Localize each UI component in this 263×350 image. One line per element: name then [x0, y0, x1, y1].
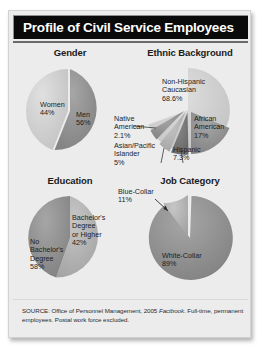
label-men: Men 56% — [76, 111, 90, 128]
chart-education-pie: Bachelor's Degree or Higher 42% No Bache… — [10, 186, 130, 296]
source-note: SOURCE: Office of Personnel Management, … — [22, 307, 244, 324]
label-bachelors-or-higher: Bachelor's Degree or Higher 42% — [72, 214, 105, 248]
leader-line-asian-pacific — [161, 148, 164, 163]
page-title: Profile of Civil Service Employees — [23, 20, 234, 35]
chart-gender-pie: Women 44% Men 56% — [10, 58, 130, 168]
label-non-hispanic-caucasian: Non-Hispanic Caucasian 68.6% — [162, 78, 205, 103]
charts-grid: Gender — [9, 44, 250, 299]
infographic-card: Profile of Civil Service Employees Gende… — [8, 10, 251, 338]
title-bar: Profile of Civil Service Employees — [13, 15, 248, 39]
chart-education: Education Bachelor's Degree or Higher 42… — [10, 172, 130, 299]
chart-job-category-title: Job Category — [130, 172, 250, 186]
label-asian-pacific-islander: Asian/Pacific Islander 5% — [114, 142, 155, 167]
chart-ethnic-title: Ethnic Background — [130, 44, 250, 58]
chart-education-title: Education — [10, 172, 130, 186]
label-white-collar: White-Collar 89% — [162, 252, 202, 269]
title-divider — [13, 41, 248, 43]
chart-job-category: Job Category Blue-Collar 11% White-Colla… — [130, 172, 250, 299]
label-women: Women 44% — [40, 101, 65, 118]
label-hispanic: Hispanic 7.3% — [173, 146, 201, 163]
label-blue-collar: Blue-Collar 11% — [118, 188, 154, 205]
source-italic-title: Factbook — [159, 307, 184, 314]
infographic-page: Profile of Civil Service Employees Gende… — [0, 0, 263, 350]
chart-ethnic-pie: Non-Hispanic Caucasian 68.6% African Ame… — [130, 58, 250, 168]
chart-ethnic: Ethnic Background — [130, 44, 250, 171]
source-prefix: SOURCE: Office of Personnel Management, … — [22, 307, 159, 314]
label-native-american: Native American 2.1% — [114, 115, 144, 140]
chart-gender-title: Gender — [10, 44, 130, 58]
source-divider — [13, 299, 248, 300]
chart-job-category-pie: Blue-Collar 11% White-Collar 89% — [130, 186, 250, 296]
chart-gender: Gender — [10, 44, 130, 171]
label-no-bachelors: No Bachelor's Degree 58% — [30, 238, 63, 272]
label-african-american: African American 17% — [194, 115, 224, 140]
